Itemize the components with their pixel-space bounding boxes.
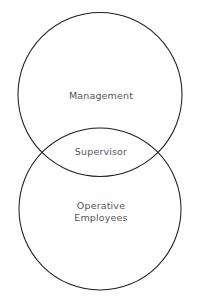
venn-diagram: Management Supervisor Operative Employee… [0, 0, 202, 302]
operative-employees-label: Operative Employees [0, 200, 202, 224]
supervisor-label: Supervisor [0, 146, 202, 158]
management-label: Management [0, 90, 202, 102]
